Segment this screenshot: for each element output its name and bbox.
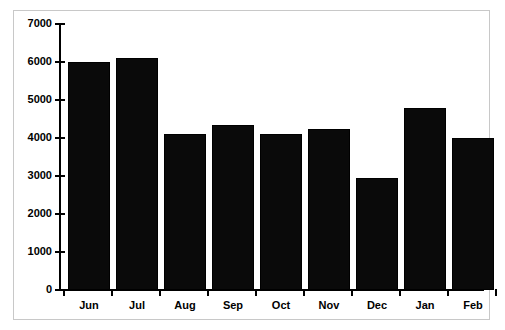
bar-jan	[404, 108, 446, 290]
bar-jun	[68, 62, 110, 290]
y-axis-tick	[55, 213, 65, 215]
x-axis-tick	[63, 289, 65, 296]
y-axis-tick-label: 6000	[6, 56, 52, 67]
y-axis-tick-label: 3000	[6, 170, 52, 181]
y-axis-tick-label: 5000	[6, 94, 52, 105]
y-axis-tick	[55, 175, 65, 177]
bar-sep	[212, 125, 254, 290]
x-axis-tick	[111, 289, 113, 296]
y-axis-tick-label-wrap: 1000	[2, 246, 52, 257]
y-axis-tick-label: 0	[6, 284, 52, 295]
y-axis-tick-label-wrap: 5000	[2, 94, 52, 105]
bar-jul	[116, 58, 158, 290]
bar-aug	[164, 134, 206, 290]
x-axis-label-jul: Jul	[113, 299, 161, 312]
x-axis-label-dec: Dec	[353, 299, 401, 312]
y-axis-tick	[55, 251, 65, 253]
x-axis-tick	[351, 289, 353, 296]
x-axis-tick	[495, 289, 497, 296]
y-axis-tick	[55, 61, 65, 63]
x-axis-tick	[447, 289, 449, 296]
y-axis-tick-label-wrap: 7000	[2, 18, 52, 29]
x-axis-label-oct: Oct	[257, 299, 305, 312]
x-axis-tick	[159, 289, 161, 296]
y-axis-tick	[55, 23, 65, 25]
x-axis-tick	[207, 289, 209, 296]
x-axis-label-feb: Feb	[449, 299, 497, 312]
y-axis-tick	[55, 99, 65, 101]
x-axis-label-sep: Sep	[209, 299, 257, 312]
y-axis-tick-label-wrap: 6000	[2, 56, 52, 67]
y-axis-tick-label: 2000	[6, 208, 52, 219]
y-axis-tick-label-wrap: 0	[2, 284, 52, 295]
y-axis-tick-label: 7000	[6, 18, 52, 29]
y-axis-tick-label-wrap: 2000	[2, 208, 52, 219]
y-axis-tick-label: 4000	[6, 132, 52, 143]
x-axis-label-jun: Jun	[65, 299, 113, 312]
bar-chart: 70006000500040003000200010000 JunJulAugS…	[0, 0, 505, 330]
y-axis-tick-label-wrap: 4000	[2, 132, 52, 143]
y-axis-tick	[55, 137, 65, 139]
y-axis-tick-label-wrap: 3000	[2, 170, 52, 181]
bar-nov	[308, 129, 350, 290]
bar-dec	[356, 178, 398, 290]
x-axis-label-nov: Nov	[305, 299, 353, 312]
bar-feb	[452, 138, 494, 290]
x-axis-tick	[399, 289, 401, 296]
x-axis-label-aug: Aug	[161, 299, 209, 312]
x-axis-tick	[255, 289, 257, 296]
y-axis-tick-label: 1000	[6, 246, 52, 257]
bar-oct	[260, 134, 302, 290]
x-axis-label-jan: Jan	[401, 299, 449, 312]
x-axis-tick	[303, 289, 305, 296]
